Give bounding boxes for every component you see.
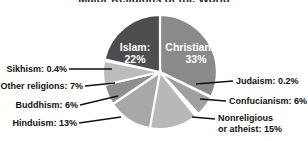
callout-label-confucianism: Confucianism: 6% bbox=[229, 96, 307, 107]
slice-label-christianity-pct: 33% bbox=[161, 54, 231, 66]
callout-label-hinduism: Hinduism: 13% bbox=[0, 118, 77, 129]
leader-line-nonreligious bbox=[192, 117, 215, 119]
slice-label-christianity: Christianity: 33% bbox=[161, 42, 231, 65]
pie-chart-area: Islam: 22% Christianity: 33% Sikhism: 0.… bbox=[0, 0, 308, 141]
pie-chart-figure: Major Religions of the World bbox=[0, 0, 308, 141]
slice-label-islam-pct: 22% bbox=[112, 54, 158, 66]
slice-label-islam: Islam: 22% bbox=[112, 42, 158, 65]
callout-label-buddhism: Buddhism: 6% bbox=[0, 100, 78, 111]
callout-label-nonreligious-line2: or atheist: 15% bbox=[218, 124, 282, 135]
callout-label-sikhism: Sikhism: 0.4% bbox=[0, 64, 67, 75]
callout-label-judaism: Judaism: 0.2% bbox=[236, 76, 299, 87]
pie-slice-group bbox=[103, 15, 217, 129]
callout-label-other-religions: Other religions: 7% bbox=[0, 81, 83, 92]
callout-label-nonreligious: Nonreligious or atheist: 15% bbox=[218, 113, 282, 134]
slice-label-christianity-name: Christianity: bbox=[165, 41, 226, 53]
callout-label-nonreligious-line1: Nonreligious bbox=[218, 113, 273, 123]
slice-label-islam-name: Islam: bbox=[120, 41, 150, 53]
leader-line-hinduism bbox=[79, 117, 121, 123]
